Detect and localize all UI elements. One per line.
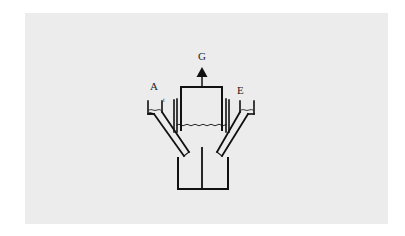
right-sleeve [226,99,229,132]
label-g: G [198,51,206,62]
label-a: A [150,81,158,92]
label-small-left: t [163,97,165,103]
left-funnel [148,101,189,156]
label-e: E [237,85,244,96]
liquid-level-line [177,124,226,126]
left-sleeve [174,99,177,132]
apparatus-diagram [0,0,405,236]
gas-outlet-arrow-icon [197,67,208,87]
gas-collection-chamber [181,87,222,130]
